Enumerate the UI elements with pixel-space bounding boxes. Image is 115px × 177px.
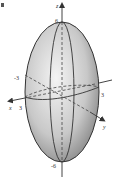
ellipsoid-diagram: z 6 -6 -3 x 3 3 y <box>0 0 115 177</box>
x-axis-ext <box>99 80 112 83</box>
z-axis-label: z <box>55 3 59 9</box>
z-top-label: 6 <box>55 18 58 24</box>
y-tick-label: 3 <box>101 92 104 98</box>
x-axis-label: x <box>8 105 12 111</box>
y-axis-label: y <box>102 124 106 130</box>
corner-mark <box>1 3 4 7</box>
z-bottom-label: -6 <box>51 163 56 169</box>
x-tick-label: 3 <box>19 105 22 111</box>
x-axis <box>10 98 25 101</box>
neg-3-label: -3 <box>14 75 19 81</box>
